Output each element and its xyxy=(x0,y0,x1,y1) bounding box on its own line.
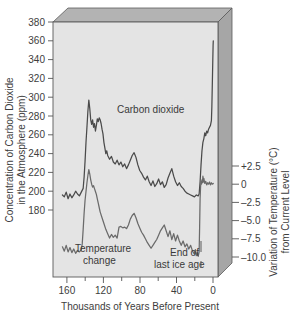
right-axis-title-line1: Variation of Temperature (°C) xyxy=(268,147,279,276)
left-tick-label-360: 360 xyxy=(28,35,45,46)
left-tick-label-240: 240 xyxy=(28,148,45,159)
right-tick-label-minus7-5: –7.5 xyxy=(241,233,261,244)
right-tick-label-minus5-0: –5.0 xyxy=(241,215,261,226)
x-axis-ticks xyxy=(67,277,213,283)
left-axis-tick-labels: 380 360 340 320 300 280 260 240 220 200 … xyxy=(28,17,45,216)
box-right-face xyxy=(218,8,232,277)
left-tick-label-180: 180 xyxy=(28,205,45,216)
end-of-last-ice-age-label-line1: End of xyxy=(170,247,199,258)
temperature-change-series-label-line2: change xyxy=(83,255,116,266)
right-axis-tick-labels: +2.5 0 –2.5 –5.0 –7.5 –10.0 xyxy=(241,161,266,263)
right-axis-title: Variation of Temperature (°C) from Curre… xyxy=(268,147,291,276)
left-tick-label-300: 300 xyxy=(28,92,45,103)
carbon-dioxide-series-label: Carbon dioxide xyxy=(117,104,185,115)
left-tick-label-220: 220 xyxy=(28,167,45,178)
right-tick-label-plus2-5: +2.5 xyxy=(241,161,261,172)
right-tick-label-0: 0 xyxy=(241,179,247,190)
left-axis-title: Concentration of Carbon Dioxide in the A… xyxy=(4,77,27,223)
x-tick-label-80: 80 xyxy=(134,285,146,296)
x-tick-label-40: 40 xyxy=(171,285,183,296)
right-tick-label-minus2-5: –2.5 xyxy=(241,197,261,208)
x-tick-label-0: 0 xyxy=(210,285,216,296)
left-axis-ticks xyxy=(48,22,53,210)
left-tick-label-280: 280 xyxy=(28,111,45,122)
x-tick-label-120: 120 xyxy=(95,285,112,296)
left-axis-title-line1: Concentration of Carbon Dioxide xyxy=(4,77,15,223)
right-tick-label-minus10-0: –10.0 xyxy=(241,252,266,263)
x-axis-title: Thousands of Years Before Present xyxy=(61,301,219,312)
right-axis-title-line2: from Current Level xyxy=(280,171,291,254)
left-tick-label-320: 320 xyxy=(28,73,45,84)
temperature-change-series-label-line1: Temperature xyxy=(75,243,132,254)
x-tick-label-160: 160 xyxy=(59,285,76,296)
climate-chart-figure: 380 360 340 320 300 280 260 240 220 200 … xyxy=(0,0,295,320)
left-tick-label-380: 380 xyxy=(28,17,45,28)
end-of-last-ice-age-label-line2: last ice age xyxy=(154,259,205,270)
x-axis-tick-labels: 160 120 80 40 0 xyxy=(59,285,217,296)
left-tick-label-340: 340 xyxy=(28,54,45,65)
left-axis-title-line2: in the Atmosphere (ppm) xyxy=(16,95,27,205)
box-top-face xyxy=(53,8,232,22)
plot-area-background xyxy=(53,22,218,277)
left-tick-label-260: 260 xyxy=(28,129,45,140)
left-axis: 380 360 340 320 300 280 260 240 220 200 … xyxy=(4,17,53,223)
left-tick-label-200: 200 xyxy=(28,186,45,197)
chart-svg: 380 360 340 320 300 280 260 240 220 200 … xyxy=(0,0,295,320)
x-axis: 160 120 80 40 0 Thousands of Years Befor… xyxy=(59,277,220,312)
right-axis: +2.5 0 –2.5 –5.0 –7.5 –10.0 Variation of… xyxy=(232,147,291,276)
right-axis-ticks xyxy=(232,166,239,257)
chart-3d-box xyxy=(53,8,232,277)
